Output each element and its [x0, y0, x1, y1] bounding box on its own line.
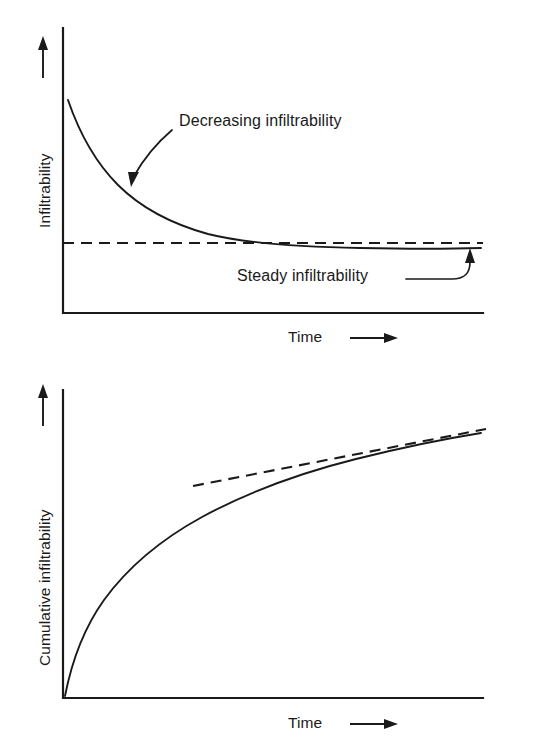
steady-slope-dashed-line: [193, 429, 486, 486]
cumulative-infiltrability-curve: [65, 433, 481, 696]
steady-infiltrability-arrowhead: [465, 248, 475, 263]
steady-infiltrability-leader: [406, 262, 470, 279]
top-x-axis-label: Time: [288, 328, 322, 346]
top-y-axis-label: Infiltrability: [36, 153, 54, 228]
cumulative-infiltrability-chart-svg: [0, 376, 534, 752]
chart-panel-cumulative-infiltrability: Cumulative infiltrability Time: [0, 376, 534, 752]
bottom-x-axis-arrowhead: [384, 719, 398, 729]
top-x-axis-arrowhead: [384, 333, 398, 343]
decreasing-infiltrability-leader: [134, 130, 172, 176]
decreasing-infiltrability-arrowhead: [128, 172, 139, 187]
annotation-decreasing-infiltrability: Decreasing infiltrability: [179, 112, 342, 130]
annotation-steady-infiltrability: Steady infiltrability: [237, 267, 368, 285]
infiltrability-chart-svg: [0, 0, 534, 376]
figure-root: Infiltrability Time Decreasing infiltrab…: [0, 0, 534, 752]
top-y-axis-arrowhead: [38, 36, 48, 50]
bottom-x-axis-label: Time: [288, 714, 322, 732]
bottom-y-axis-arrowhead: [38, 384, 48, 398]
bottom-chart-axes: [63, 390, 483, 698]
chart-panel-infiltrability: Infiltrability Time Decreasing infiltrab…: [0, 0, 534, 376]
bottom-y-axis-label: Cumulative infiltrability: [36, 509, 54, 666]
